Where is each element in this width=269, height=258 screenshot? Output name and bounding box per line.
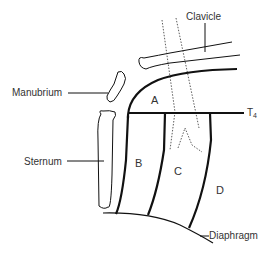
left-border-b bbox=[116, 116, 128, 214]
diaphragm-label: Diaphragm bbox=[209, 231, 258, 241]
diaphragm-curve bbox=[103, 213, 213, 243]
sternum-shape bbox=[98, 111, 116, 209]
anatomy-drawing bbox=[0, 0, 269, 258]
sternum-label: Sternum bbox=[24, 157, 62, 167]
dotted-peak bbox=[178, 128, 202, 152]
divider-cd bbox=[189, 113, 211, 228]
clavicle-label: Clavicle bbox=[186, 12, 221, 22]
t4-label: T4 bbox=[247, 108, 257, 119]
region-b-label: B bbox=[135, 158, 142, 169]
clavicle-shape bbox=[139, 42, 240, 69]
region-d-label: D bbox=[216, 185, 224, 196]
upper-border-curve bbox=[128, 69, 237, 118]
t4-subscript: 4 bbox=[253, 112, 257, 119]
mediastinum-diagram: Clavicle Manubrium Sternum T4 Diaphragm … bbox=[0, 0, 269, 258]
manubrium-label: Manubrium bbox=[12, 88, 62, 98]
divider-bc bbox=[148, 113, 165, 215]
region-c-label: C bbox=[174, 166, 182, 177]
region-a-label: A bbox=[151, 95, 158, 106]
manubrium-shape bbox=[107, 71, 126, 102]
